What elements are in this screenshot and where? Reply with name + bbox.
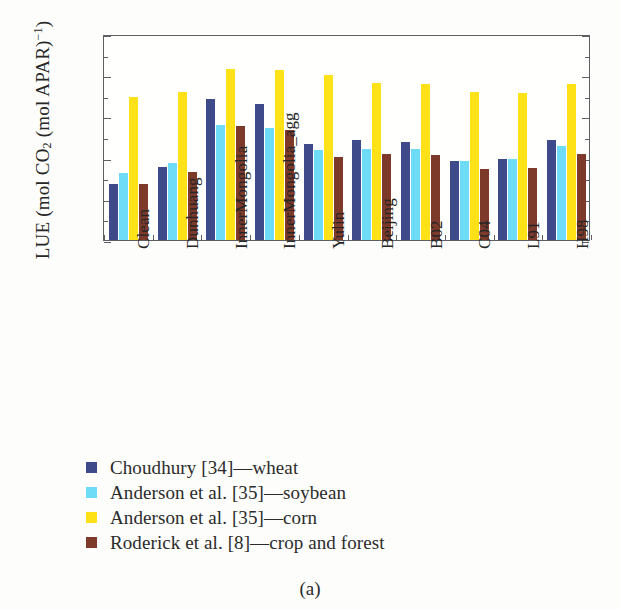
bar-fill [216, 125, 225, 240]
bar-fill [109, 184, 118, 240]
bar-fill [498, 159, 507, 240]
legend-item: Roderick et al. [8]—crop and forest [86, 530, 556, 555]
bar-fill [518, 93, 527, 240]
bar-fill [352, 140, 361, 240]
legend-item: Anderson et al. [35]—corn [86, 505, 556, 530]
legend-swatch-corn-icon [86, 512, 97, 523]
y-axis-tick-major [104, 242, 111, 243]
y-axis-title-suffix: ) [32, 21, 53, 28]
bar-fill [265, 128, 274, 240]
plot-area: 0.050.040.030.020.010 [103, 35, 590, 241]
x-axis-category-label: InnerMongolia_agg [280, 112, 300, 249]
legend-swatch-crop-forest-icon [86, 537, 97, 548]
bar-fill [411, 149, 420, 240]
bar-fill [567, 84, 576, 240]
bar-fill [547, 140, 556, 240]
x-axis-category-label: Clean [134, 209, 154, 249]
y-axis-title: LUE (mol CO2 (mol APAR)−1) [31, 5, 55, 275]
bar-fill [470, 92, 479, 240]
bar-fill [460, 161, 469, 240]
bar-group [494, 36, 543, 240]
bar-fill [158, 167, 167, 240]
bar-fill [508, 159, 517, 240]
figure-caption: (a) [0, 578, 620, 600]
x-axis-category-label: C04 [475, 220, 495, 249]
legend: Choudhury [34]—wheatAnderson et al. [35]… [86, 455, 556, 555]
bar-fill [362, 149, 371, 240]
bar-series-container [104, 36, 589, 240]
x-axis-category-label: L91 [524, 221, 544, 249]
bar-fill [206, 99, 215, 240]
y-axis-title-prefix: LUE (mol CO [32, 148, 53, 259]
bar-group [445, 36, 494, 240]
bar-fill [255, 104, 264, 240]
bar-fill [557, 146, 566, 240]
legend-swatch-soybean-icon [86, 487, 97, 498]
y-axis-title-mid: (mol APAR) [32, 40, 53, 142]
legend-item-label: Choudhury [34]—wheat [110, 457, 298, 479]
bar-group [396, 36, 445, 240]
bar-fill [401, 142, 410, 240]
legend-item-label: Roderick et al. [8]—crop and forest [110, 532, 385, 554]
bar-fill [421, 84, 430, 240]
y-axis-title-superscript: −1 [31, 27, 45, 40]
bar-fill [119, 173, 128, 240]
bar-fill [450, 161, 459, 240]
legend-item: Choudhury [34]—wheat [86, 455, 556, 480]
bar-group [542, 36, 591, 240]
x-axis-category-label: InnerMongolia [232, 146, 252, 249]
legend-item: Anderson et al. [35]—soybean [86, 480, 556, 505]
bar-group [299, 36, 348, 240]
legend-swatch-wheat-icon [86, 462, 97, 473]
legend-item-label: Anderson et al. [35]—soybean [110, 482, 346, 504]
bar-fill [314, 150, 323, 240]
x-axis-category-label: Yulin [329, 212, 349, 249]
bar-fill [304, 144, 313, 240]
x-axis-category-label: Beijing [378, 198, 398, 249]
x-axis-category-label: Dunhuang [183, 177, 203, 249]
figure-panel-a: LUE (mol CO2 (mol APAR)−1) 0.050.040.030… [0, 0, 620, 609]
bar-fill [168, 163, 177, 240]
x-axis-tick [104, 235, 105, 240]
x-axis-category-label: H98 [573, 219, 593, 249]
legend-item-label: Anderson et al. [35]—corn [110, 507, 317, 529]
x-axis-category-label: B02 [427, 220, 447, 249]
y-axis-title-subscript: 2 [40, 142, 54, 148]
